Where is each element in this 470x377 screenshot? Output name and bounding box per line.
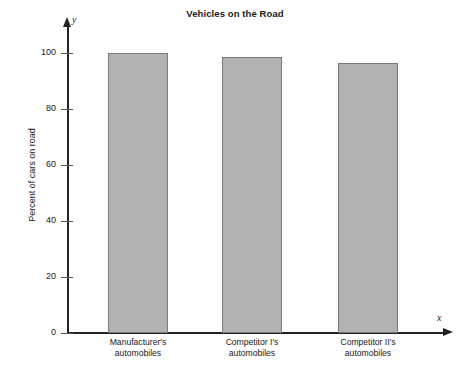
x-category-label-2-line2: automobiles (308, 348, 428, 359)
y-tick-80 (61, 109, 73, 110)
bar-competitor-ii-automobiles (338, 63, 398, 333)
y-tick-20 (61, 277, 73, 278)
bar-competitor-i-automobiles (222, 57, 282, 333)
chart-page: Vehicles on the Road y x 0 20 40 60 80 (0, 0, 470, 377)
y-tick-100 (61, 53, 73, 54)
x-category-label-1: Competitor I's automobiles (192, 337, 312, 359)
x-axis-arrow-icon (443, 328, 453, 336)
bar-manufacturers-automobiles (108, 53, 168, 333)
plot-area: y x 0 20 40 60 80 100 Percent of cars on… (0, 0, 470, 377)
x-category-label-2: Competitor II's automobiles (308, 337, 428, 359)
x-category-label-0-line2: automobiles (78, 348, 198, 359)
y-tick-60 (61, 165, 73, 166)
y-axis-arrow-icon (63, 17, 71, 27)
x-axis-letter: x (437, 312, 441, 323)
y-tick-label-20: 20 (26, 271, 56, 281)
x-category-label-1-line2: automobiles (192, 348, 312, 359)
x-category-label-2-line1: Competitor II's (308, 337, 428, 348)
x-category-label-0: Manufacturer's automobiles (78, 337, 198, 359)
y-tick-label-0: 0 (26, 327, 56, 337)
x-category-label-1-line1: Competitor I's (192, 337, 312, 348)
y-tick-0 (61, 333, 73, 334)
y-axis-title: Percent of cars on road (27, 95, 37, 255)
y-axis-letter: y (72, 14, 76, 25)
y-axis-line (67, 26, 69, 334)
y-tick-40 (61, 221, 73, 222)
x-category-label-0-line1: Manufacturer's (78, 337, 198, 348)
y-tick-label-100: 100 (26, 47, 56, 57)
